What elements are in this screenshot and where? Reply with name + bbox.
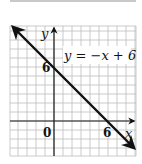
coordinate-plane: y x 6 6 0 y = −x + 6 [0,0,142,164]
x-tick-6: 6 [103,126,111,140]
y-axis-label: y [40,26,49,41]
origin-label: 0 [43,126,51,140]
equation-label: y = −x + 6 [63,48,136,63]
x-axis-label: x [125,126,133,141]
grid [10,26,136,156]
y-tick-6: 6 [42,61,50,75]
